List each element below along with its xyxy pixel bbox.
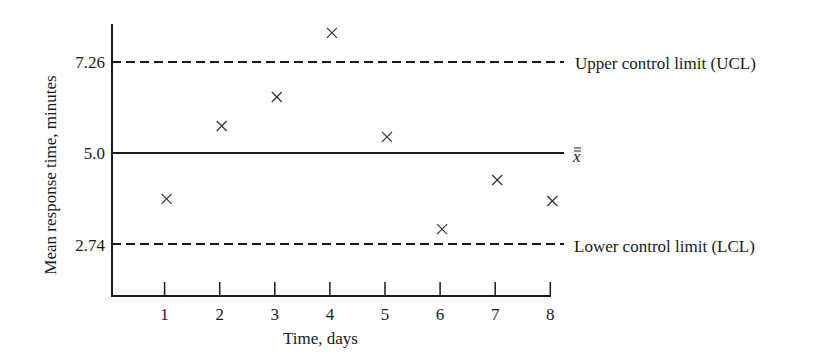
x-marker bbox=[437, 224, 447, 234]
x-tick-label: 2 bbox=[215, 305, 224, 324]
x-marker bbox=[217, 121, 227, 131]
control-chart: 7.26 5.0 2.74 Upper control limit (UCL) … bbox=[0, 0, 833, 361]
x-tick-label: 7 bbox=[491, 305, 500, 324]
x-tick-label: 1 bbox=[160, 305, 169, 324]
x-tick-label: 5 bbox=[381, 305, 390, 324]
y-axis-label: Mean response time, minutes bbox=[41, 75, 60, 274]
x-marker bbox=[162, 194, 172, 204]
x-axis-label: Time, days bbox=[283, 329, 358, 348]
x-marker bbox=[327, 28, 337, 38]
x-marker bbox=[272, 92, 282, 102]
y-tick-center: 5.0 bbox=[84, 144, 105, 163]
y-tick-ucl: 7.26 bbox=[75, 53, 105, 72]
x-marker bbox=[547, 196, 557, 206]
y-tick-lcl: 2.74 bbox=[75, 236, 105, 255]
ucl-label: Upper control limit (UCL) bbox=[575, 54, 756, 73]
data-points bbox=[162, 28, 558, 234]
lcl-label: Lower control limit (LCL) bbox=[574, 237, 755, 256]
x-tick-labels: 12345678 bbox=[160, 305, 554, 324]
x-tick-label: 3 bbox=[271, 305, 280, 324]
center-line-label: x bbox=[572, 147, 581, 166]
x-tick-label: 8 bbox=[546, 305, 555, 324]
x-tick-label: 4 bbox=[326, 305, 335, 324]
axes bbox=[111, 24, 551, 296]
x-marker bbox=[492, 175, 502, 185]
x-marker bbox=[382, 132, 392, 142]
x-tick-label: 6 bbox=[436, 305, 445, 324]
reference-lines bbox=[112, 62, 564, 244]
